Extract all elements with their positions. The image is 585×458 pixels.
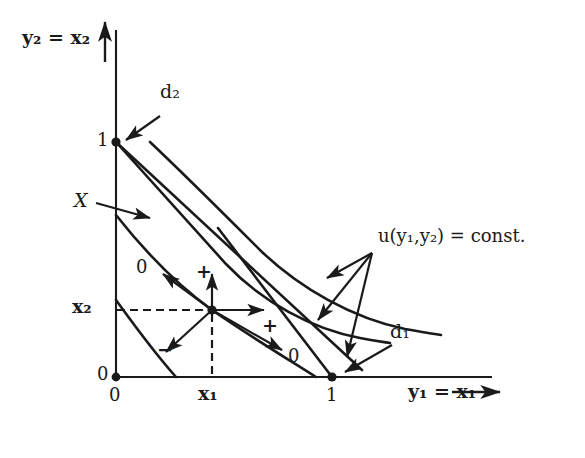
label-d2: d₂ — [160, 82, 180, 101]
y-tick-label-x2: x₂ — [72, 297, 92, 316]
point-interior-x — [207, 305, 216, 314]
y-axis-label: y₂ = x₂ — [22, 28, 90, 47]
label-zero-lower-right: 0 — [288, 347, 299, 365]
label-zero-upper-left: 0 — [136, 258, 147, 276]
leader-arrow-set-x — [96, 203, 150, 218]
x-axis-label: y₁ = x₁ — [408, 382, 476, 401]
x-tick-label-x1: x₁ — [198, 384, 218, 403]
label-plus-horizontal: + — [262, 316, 278, 335]
label-set-x: X — [74, 191, 88, 210]
leader-arrow-d1 — [345, 345, 392, 372]
x-tick-label-1: 1 — [326, 386, 337, 404]
point-y-unit — [111, 137, 120, 146]
leader-arrow-utility-outer — [327, 253, 372, 278]
label-minus-diagonal: − — [157, 340, 173, 359]
figure-canvas: y₂ = x₂ y₁ = x₁ 1 x₂ 0 0 x₁ 1 d₂ d₁ X u(… — [0, 0, 585, 458]
y-tick-label-0: 0 — [97, 365, 108, 383]
point-x-unit — [327, 372, 336, 381]
label-plus-vertical: + — [196, 262, 212, 281]
y-tick-label-1: 1 — [97, 131, 108, 149]
label-utility-const: u(y₁,y₂) = const. — [378, 227, 525, 245]
label-d1: d₁ — [390, 322, 410, 341]
indifference-curve-inner — [116, 215, 316, 377]
x-tick-label-0: 0 — [109, 386, 120, 404]
leader-arrow-d2 — [126, 116, 160, 140]
point-origin — [112, 373, 121, 382]
price-line-d1 — [218, 228, 332, 377]
